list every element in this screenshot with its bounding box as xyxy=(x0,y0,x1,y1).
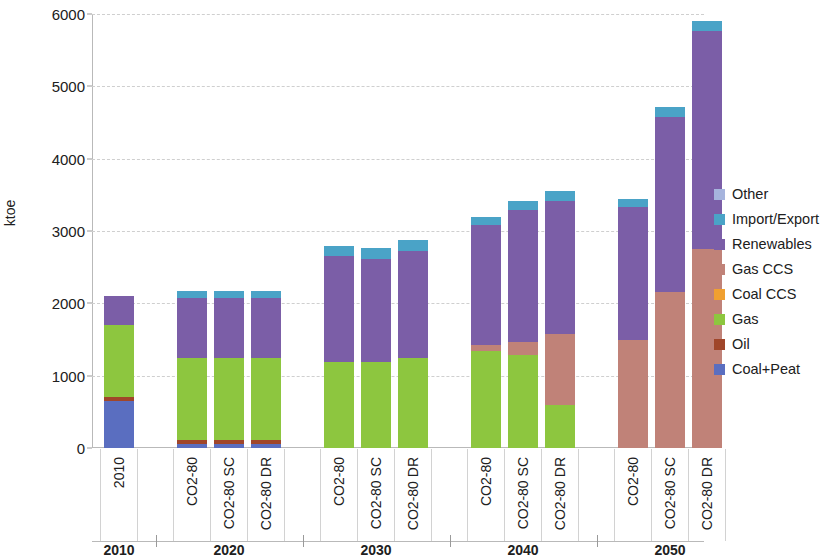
bar[interactable] xyxy=(471,217,501,448)
x-axis-group-label: 2010 xyxy=(103,542,134,558)
bar-segment[interactable] xyxy=(398,251,428,358)
bar-segment[interactable] xyxy=(251,358,281,440)
bar-segment[interactable] xyxy=(214,298,244,358)
legend-swatch-icon xyxy=(714,189,725,200)
bar-segment[interactable] xyxy=(471,217,501,225)
bar-segment[interactable] xyxy=(324,362,354,448)
x-axis-region: 2010CO2-80CO2-80 SCCO2-80 DRCO2-80CO2-80… xyxy=(92,449,704,559)
y-tick-label: 3000 xyxy=(52,223,85,240)
legend-label: Renewables xyxy=(732,236,812,252)
legend-item[interactable]: Coal CCS xyxy=(714,286,819,302)
bar-segment[interactable] xyxy=(545,191,575,201)
x-axis-label: CO2-80 xyxy=(478,457,494,506)
gridline xyxy=(92,86,704,87)
bar-segment[interactable] xyxy=(692,21,722,32)
bar-segment[interactable] xyxy=(251,298,281,358)
bar-segment[interactable] xyxy=(618,340,648,449)
bar-segment[interactable] xyxy=(508,210,538,342)
x-tick xyxy=(394,449,395,541)
bar[interactable] xyxy=(214,291,244,448)
x-tick xyxy=(614,449,615,541)
x-tick xyxy=(173,449,174,541)
bar-segment[interactable] xyxy=(214,444,244,448)
bar[interactable] xyxy=(655,107,685,448)
legend-swatch-icon xyxy=(714,339,725,350)
legend-item[interactable]: Coal+Peat xyxy=(714,361,819,377)
bar-segment[interactable] xyxy=(214,358,244,440)
x-axis-label: CO2-80 DR xyxy=(552,457,568,530)
x-axis-label: CO2-80 SC xyxy=(221,457,237,529)
bar-segment[interactable] xyxy=(655,117,685,293)
stacked-bar-chart: ktoe 0100020003000400050006000 2010CO2-8… xyxy=(0,0,823,559)
bar-segment[interactable] xyxy=(104,296,134,325)
bar-segment[interactable] xyxy=(655,107,685,116)
bar-segment[interactable] xyxy=(618,207,648,339)
x-axis-label: CO2-80 DR xyxy=(405,457,421,530)
legend-item[interactable]: Other xyxy=(714,186,819,202)
bar-segment[interactable] xyxy=(104,325,134,397)
bar-segment[interactable] xyxy=(545,201,575,334)
bar-segment[interactable] xyxy=(618,199,648,207)
bar-segment[interactable] xyxy=(324,256,354,362)
bar-segment[interactable] xyxy=(508,355,538,448)
x-tick xyxy=(725,449,726,541)
x-axis-group-separator xyxy=(597,535,598,547)
legend-item[interactable]: Gas xyxy=(714,311,819,327)
legend-label: Coal+Peat xyxy=(732,361,800,377)
y-tick-mark xyxy=(87,375,92,376)
bar-segment[interactable] xyxy=(655,292,685,448)
bar[interactable] xyxy=(545,191,575,449)
bar-segment[interactable] xyxy=(508,201,538,210)
x-axis-label: CO2-80 SC xyxy=(662,457,678,529)
legend: OtherImport/ExportRenewablesGas CCSCoal … xyxy=(714,186,819,377)
y-tick-label: 1000 xyxy=(52,367,85,384)
x-tick xyxy=(320,449,321,541)
bar-segment[interactable] xyxy=(324,246,354,257)
legend-item[interactable]: Renewables xyxy=(714,236,819,252)
y-tick-label: 6000 xyxy=(52,6,85,23)
bar[interactable] xyxy=(251,291,281,448)
legend-item[interactable]: Gas CCS xyxy=(714,261,819,277)
bar-segment[interactable] xyxy=(361,259,391,362)
bar-segment[interactable] xyxy=(398,240,428,251)
bar-segment[interactable] xyxy=(177,358,207,440)
x-axis-group-label: 2020 xyxy=(213,542,244,558)
legend-swatch-icon xyxy=(714,364,725,375)
bar[interactable] xyxy=(618,199,648,448)
bar-segment[interactable] xyxy=(471,225,501,345)
bar-segment[interactable] xyxy=(471,351,501,448)
bar[interactable] xyxy=(508,201,538,448)
x-axis-group-label: 2030 xyxy=(360,542,391,558)
legend-swatch-icon xyxy=(714,239,725,250)
bar-segment[interactable] xyxy=(251,444,281,448)
x-axis-label: CO2-80 SC xyxy=(368,457,384,529)
legend-item[interactable]: Oil xyxy=(714,336,819,352)
bar-segment[interactable] xyxy=(361,362,391,448)
bar[interactable] xyxy=(398,240,428,448)
legend-item[interactable]: Import/Export xyxy=(714,211,819,227)
bar-segment[interactable] xyxy=(177,444,207,448)
bar-segment[interactable] xyxy=(104,401,134,448)
legend-swatch-icon xyxy=(714,289,725,300)
x-axis-group-separator xyxy=(450,535,451,547)
x-tick xyxy=(431,449,432,541)
x-axis-label: 2010 xyxy=(111,457,127,488)
bar[interactable] xyxy=(361,248,391,448)
gridline xyxy=(92,14,704,15)
bar-segment[interactable] xyxy=(545,334,575,405)
bar-segment[interactable] xyxy=(177,298,207,358)
bar-segment[interactable] xyxy=(508,342,538,355)
y-tick-mark xyxy=(87,231,92,232)
x-tick xyxy=(357,449,358,541)
bar[interactable] xyxy=(177,291,207,448)
x-tick xyxy=(651,449,652,541)
bar-segment[interactable] xyxy=(545,405,575,448)
bar-segment[interactable] xyxy=(398,358,428,448)
legend-label: Coal CCS xyxy=(732,286,796,302)
x-axis-baseline xyxy=(92,541,704,542)
legend-label: Other xyxy=(732,186,768,202)
bar[interactable] xyxy=(104,296,134,448)
bar-segment[interactable] xyxy=(361,248,391,259)
bar[interactable] xyxy=(324,245,354,448)
y-axis-title: ktoe xyxy=(2,200,18,226)
